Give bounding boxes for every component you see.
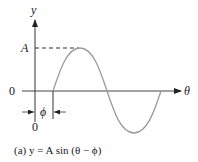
figure-caption: (a) y = A sin (θ − ϕ)	[14, 144, 102, 157]
phase-shift-diagram: y A 0 θ ϕ 0 (a) y = A sin (θ − ϕ)	[0, 0, 198, 162]
x-axis-label: θ	[184, 84, 190, 98]
phase-label: ϕ	[40, 105, 46, 119]
origin-label-left: 0	[9, 84, 15, 98]
amplitude-label: A	[20, 41, 29, 55]
y-axis-label: y	[30, 3, 37, 17]
origin-label-bottom: 0	[32, 120, 38, 134]
